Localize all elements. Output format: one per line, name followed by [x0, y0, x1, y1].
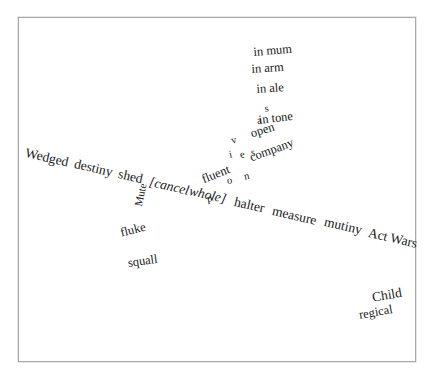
- page-canvas: in mum in arm in ale in tone open compan…: [0, 0, 433, 381]
- phrase-in-mum: in mum: [253, 43, 292, 59]
- phrase-in-arm: in arm: [251, 61, 284, 76]
- phrase-in-ale: in ale: [256, 81, 284, 95]
